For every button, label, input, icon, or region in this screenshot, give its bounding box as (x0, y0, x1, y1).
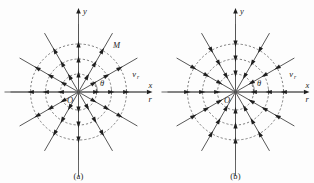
velocity-arrowhead-150deg-r1 (60, 82, 67, 87)
velocity-arrowhead-150deg-r3 (190, 64, 197, 69)
velocity-label: v (289, 69, 293, 79)
velocity-arrowhead-330deg-r3 (274, 115, 281, 120)
velocity-arrowhead-240deg-r1 (223, 105, 228, 112)
velocity-arrowhead-330deg-r1 (248, 100, 255, 105)
velocity-arrowhead-210deg-r1 (60, 97, 67, 102)
point-m-label: M (112, 40, 121, 50)
r-axis-label: r (306, 94, 310, 104)
velocity-arrowhead-270deg-r2 (233, 122, 237, 128)
velocity-arrowhead-240deg-r3 (208, 131, 213, 138)
y-axis-arrowhead (233, 8, 238, 14)
axis-group (162, 8, 310, 176)
velocity-subscript-label: r (137, 74, 140, 80)
velocity-arrowhead-120deg-r1 (68, 74, 73, 81)
theta-label: θ (257, 78, 261, 88)
figure-root: yxrOθvrM (a) yxrOθvr (b) (0, 0, 314, 183)
velocity-arrowhead-300deg-r3 (99, 130, 104, 137)
velocity-arrowhead-300deg-r2 (91, 117, 96, 124)
x-axis-label: x (305, 80, 310, 90)
velocity-arrowhead-150deg-r2 (47, 74, 54, 79)
panel-b-diagram: yxrOθvr (157, 0, 314, 183)
origin-label: O (67, 95, 73, 105)
velocity-arrowhead-210deg-r2 (203, 107, 210, 112)
x-axis-label: x (148, 80, 153, 90)
axis-group (5, 8, 153, 176)
theta-label: θ (100, 78, 104, 88)
velocity-label: v (132, 69, 136, 79)
velocity-arrowhead-30deg-r1 (248, 79, 255, 84)
velocity-arrowhead-210deg-r3 (34, 112, 41, 117)
velocity-arrowhead-330deg-r2 (261, 107, 268, 112)
velocity-arrowhead-240deg-r2 (61, 117, 66, 124)
velocity-arrowhead-30deg-r3 (274, 64, 281, 69)
velocity-arrowhead-120deg-r2 (61, 61, 66, 68)
y-axis-label: y (239, 6, 244, 16)
panel-a: yxrOθvrM (a) (0, 0, 157, 183)
panel-b-caption: (b) (157, 171, 314, 181)
origin-label: O (224, 95, 230, 105)
panel-b: yxrOθvr (b) (157, 0, 314, 183)
r-axis-label: r (149, 94, 153, 104)
velocity-arrowhead-270deg-r2 (76, 122, 80, 128)
velocity-arrowhead-60deg-r1 (84, 74, 89, 81)
velocity-arrowhead-60deg-r2 (251, 59, 256, 66)
velocity-arrowhead-120deg-r3 (53, 48, 58, 55)
y-axis-arrowhead (76, 8, 81, 14)
panel-a-diagram: yxrOθvrM (0, 0, 157, 183)
velocity-arrowhead-300deg-r1 (243, 105, 248, 112)
panel-a-caption: (a) (0, 171, 157, 181)
y-axis-label: y (82, 6, 87, 16)
velocity-arrowhead-60deg-r3 (99, 48, 104, 55)
velocity-subscript-label: r (294, 74, 297, 80)
